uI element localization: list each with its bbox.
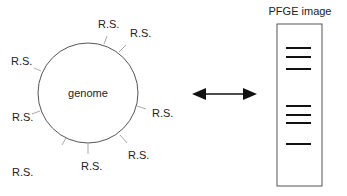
restriction-site-label: R.S. [81, 160, 102, 172]
restriction-site-label: R.S. [130, 27, 151, 39]
restriction-site-tick [34, 68, 41, 71]
restriction-site-label: R.S. [12, 111, 33, 123]
restriction-site-label: R.S. [11, 55, 32, 67]
arrow-head-right-icon [243, 88, 257, 100]
restriction-site-label: R.S. [128, 149, 149, 161]
restriction-site-tick [62, 138, 66, 145]
arrow-head-left-icon [192, 88, 206, 100]
genome-group: genome R.S.R.S.R.S.R.S.R.S.R.S.R.S.R.S. [11, 18, 173, 178]
restriction-site-tick [120, 135, 127, 143]
pfge-panel: PFGE image [269, 5, 332, 186]
restriction-site-tick [104, 36, 107, 44]
diagram-canvas: genome R.S.R.S.R.S.R.S.R.S.R.S.R.S.R.S. … [0, 0, 347, 196]
restriction-site-label: R.S. [12, 166, 33, 178]
bidirectional-arrow [192, 88, 257, 100]
restriction-site-label: R.S. [152, 107, 173, 119]
restriction-site-tick [119, 45, 126, 52]
gel-bands [286, 48, 311, 144]
pfge-title: PFGE image [269, 5, 332, 17]
genome-label: genome [68, 87, 108, 99]
restriction-site-tick [137, 106, 146, 109]
restriction-site-label: R.S. [98, 18, 119, 30]
